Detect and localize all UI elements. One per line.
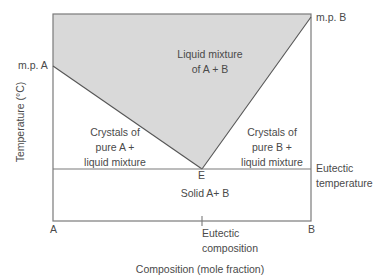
eutectic-temperature-label: Eutectic temperature [316, 161, 386, 191]
liquid-label-line2: of A + B [160, 62, 260, 77]
crystals-b-line3: liquid mixture [232, 155, 312, 170]
crystals-b-line1: Crystals of [232, 125, 312, 140]
solid-region-label: Solid A+ B [160, 186, 250, 201]
x-axis-right-label: B [308, 222, 315, 237]
crystals-b-region-label: Crystals of pure B + liquid mixture [232, 125, 312, 170]
y-axis-title: Temperature (°C) [14, 62, 26, 182]
phase-diagram [0, 0, 386, 280]
liquid-label-line1: Liquid mixture [160, 47, 260, 62]
eutectic-composition-label: Eutectic composition [202, 226, 262, 256]
eutectic-point-label: E [198, 168, 205, 183]
liquid-region-label: Liquid mixture of A + B [160, 47, 260, 77]
crystals-a-line3: liquid mixture [75, 155, 155, 170]
crystals-a-region-label: Crystals of pure A + liquid mixture [75, 125, 155, 170]
mp-b-label: m.p. B [316, 10, 346, 25]
crystals-b-line2: pure B + [232, 140, 312, 155]
x-axis-left-label: A [50, 222, 57, 237]
crystals-a-line2: pure A + [75, 140, 155, 155]
eutectic-temperature-text: Eutectic temperature [316, 161, 380, 191]
x-axis-title: Composition (mole fraction) [100, 262, 300, 277]
eutectic-composition-text: Eutectic composition [202, 226, 260, 256]
crystals-a-line1: Crystals of [75, 125, 155, 140]
